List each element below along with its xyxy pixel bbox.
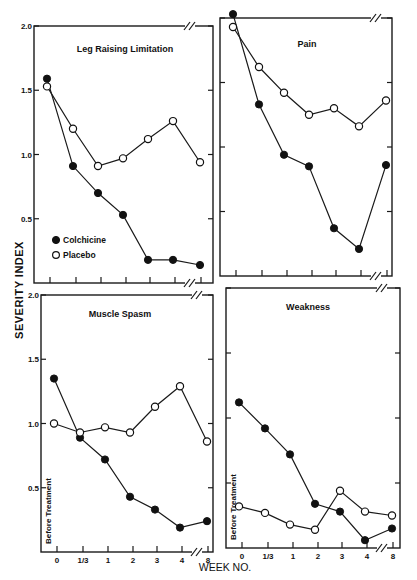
series-line-colchicine — [233, 14, 386, 249]
data-point-placebo — [305, 111, 312, 118]
x-tick-label: 1/3 — [77, 556, 89, 565]
x-tick-label: 3 — [340, 552, 345, 561]
data-point-colchicine — [255, 101, 262, 108]
data-point-colchicine — [382, 161, 389, 168]
panel-frame — [226, 288, 400, 548]
panel-leg-raising-limitation: 0.51.01.52.0Leg Raising Limitation — [21, 22, 213, 287]
data-point-placebo — [235, 503, 242, 510]
data-point-placebo — [229, 23, 236, 30]
y-tick-label: 1.0 — [28, 420, 40, 429]
data-point-placebo — [176, 383, 183, 390]
data-point-placebo — [286, 521, 293, 528]
data-point-colchicine — [144, 256, 151, 263]
before-treatment-label: Before Treatment — [44, 478, 53, 544]
data-point-placebo — [311, 526, 318, 533]
data-point-placebo — [50, 420, 57, 427]
x-tick-label: 0 — [55, 556, 60, 565]
data-point-colchicine — [151, 506, 158, 513]
y-axis-label: SEVERITY INDEX — [13, 241, 25, 339]
panel-title: Weakness — [286, 302, 330, 312]
data-point-colchicine — [94, 189, 101, 196]
panel-weakness: 01/312348WeaknessBefore Treatment — [226, 284, 400, 561]
y-tick-label: 0.5 — [28, 484, 40, 493]
data-point-colchicine — [330, 225, 337, 232]
x-tick-label: 8 — [391, 552, 396, 561]
data-point-colchicine — [69, 162, 76, 169]
data-point-placebo — [330, 105, 337, 112]
data-point-colchicine — [311, 500, 318, 507]
y-tick-label: 2.0 — [21, 22, 33, 31]
data-point-colchicine — [203, 518, 210, 525]
x-tick-label: 4 — [365, 552, 370, 561]
data-point-colchicine — [388, 525, 395, 532]
x-tick-label: 1/3 — [262, 552, 274, 561]
x-tick-label: 2 — [131, 556, 136, 565]
data-point-placebo — [255, 63, 262, 70]
severity-index-chart: 0.51.01.52.0Leg Raising LimitationPain0.… — [0, 0, 417, 580]
y-tick-label: 1.0 — [21, 151, 33, 160]
data-point-placebo — [280, 89, 287, 96]
data-point-placebo — [382, 97, 389, 104]
filled-circle-icon — [52, 236, 59, 243]
series-line-colchicine — [54, 379, 207, 528]
data-point-colchicine — [361, 537, 368, 544]
data-point-colchicine — [101, 456, 108, 463]
data-point-placebo — [76, 429, 83, 436]
series-line-colchicine — [239, 402, 392, 540]
data-point-colchicine — [286, 451, 293, 458]
data-point-colchicine — [280, 151, 287, 158]
panel-title: Muscle Spasm — [89, 309, 152, 319]
data-point-placebo — [361, 508, 368, 515]
data-point-placebo — [119, 155, 126, 162]
legend-label-colchicine: Colchicine — [63, 235, 106, 245]
data-point-colchicine — [261, 425, 268, 432]
y-tick-label: 1.5 — [28, 355, 40, 364]
x-tick-label: 4 — [180, 556, 185, 565]
data-point-colchicine — [176, 524, 183, 531]
data-point-placebo — [101, 424, 108, 431]
data-point-placebo — [151, 403, 158, 410]
data-point-placebo — [336, 487, 343, 494]
data-point-colchicine — [50, 375, 57, 382]
data-point-colchicine — [169, 256, 176, 263]
legend-label-placebo: Placebo — [63, 250, 96, 260]
y-tick-label: 1.5 — [21, 86, 33, 95]
panel-title: Leg Raising Limitation — [77, 44, 174, 54]
data-point-colchicine — [355, 245, 362, 252]
y-tick-label: 0.5 — [21, 215, 33, 224]
data-point-colchicine — [336, 508, 343, 515]
data-point-placebo — [43, 83, 50, 90]
data-point-placebo — [203, 438, 210, 445]
data-point-placebo — [94, 162, 101, 169]
x-tick-label: 1 — [106, 556, 111, 565]
x-tick-label: 2 — [316, 552, 321, 561]
open-circle-icon — [53, 252, 60, 259]
x-tick-label: 1 — [291, 552, 296, 561]
data-point-colchicine — [196, 261, 203, 268]
x-tick-label: 0 — [240, 552, 245, 561]
data-point-placebo — [126, 429, 133, 436]
data-point-colchicine — [305, 163, 312, 170]
data-point-colchicine — [43, 75, 50, 82]
data-point-colchicine — [119, 211, 126, 218]
data-point-placebo — [69, 125, 76, 132]
x-axis-label: WEEK NO. — [199, 561, 252, 573]
data-point-placebo — [261, 509, 268, 516]
legend: ColchicinePlacebo — [52, 235, 106, 260]
data-point-placebo — [169, 117, 176, 124]
panel-muscle-spasm: 0.51.01.52.001/312348Muscle SpasmBefore … — [28, 291, 213, 565]
data-point-placebo — [144, 135, 151, 142]
data-point-placebo — [388, 512, 395, 519]
x-tick-label: 3 — [155, 556, 160, 565]
panel-pain: Pain — [220, 11, 392, 280]
data-point-colchicine — [229, 11, 236, 18]
data-point-placebo — [196, 159, 203, 166]
panel-frame — [41, 295, 213, 552]
panel-title: Pain — [297, 39, 316, 49]
data-point-colchicine — [235, 399, 242, 406]
data-point-colchicine — [126, 493, 133, 500]
data-point-placebo — [355, 123, 362, 130]
y-tick-label: 2.0 — [28, 291, 40, 300]
